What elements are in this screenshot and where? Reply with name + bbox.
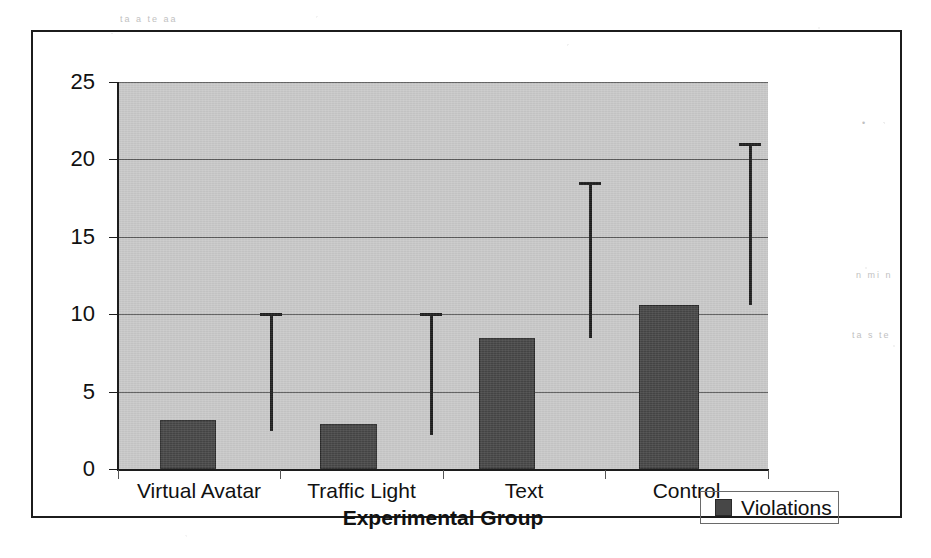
legend: Violations [700, 491, 839, 524]
y-tick-15 [109, 237, 118, 238]
bar-traffic-light[interactable] [320, 424, 377, 469]
legend-label-violations: Violations [741, 497, 832, 518]
error-bar-stem-control [749, 144, 752, 305]
y-axis-line [117, 82, 119, 470]
gridline-20 [118, 159, 768, 160]
scan-smudge-top: ta a te aa [120, 14, 178, 24]
y-tick-label-10: 10 [49, 303, 95, 325]
chart-frame: 25 20 15 10 5 0 Virtual Avatar Traffic L… [31, 30, 902, 518]
y-tick-label-0: 0 [49, 458, 95, 480]
x-tick-label-virtual-avatar: Virtual Avatar [118, 479, 280, 503]
error-bar-cap-control [739, 143, 761, 146]
x-axis-title: Experimental Group [117, 506, 769, 530]
gridline-25 [118, 82, 768, 83]
bar-virtual-avatar[interactable] [160, 420, 216, 469]
y-tick-label-5: 5 [49, 381, 95, 403]
legend-swatch-violations [715, 499, 732, 516]
x-tick-boundary-1 [280, 470, 281, 479]
y-tick-0 [109, 469, 118, 470]
y-tick-label-15: 15 [49, 226, 95, 248]
error-bar-cap-virtual-avatar [260, 313, 282, 316]
error-bar-cap-text [579, 182, 601, 185]
error-bar-cap-traffic-light [420, 313, 442, 316]
x-tick-boundary-4 [768, 470, 769, 479]
x-tick-boundary-3 [605, 470, 606, 479]
x-tick-label-text: Text [443, 479, 605, 503]
error-bar-stem-traffic-light [430, 314, 433, 435]
error-bar-stem-virtual-avatar [270, 314, 273, 431]
x-tick-boundary-0 [118, 470, 119, 479]
bar-text[interactable] [479, 338, 535, 469]
y-tick-10 [109, 314, 118, 315]
y-tick-20 [109, 159, 118, 160]
y-tick-label-20: 20 [49, 148, 95, 170]
y-tick-5 [109, 392, 118, 393]
plot-area [118, 82, 768, 469]
error-bar-stem-text [589, 183, 592, 338]
y-tick-label-25: 25 [49, 71, 95, 93]
bar-control[interactable] [639, 305, 699, 469]
y-tick-25 [109, 82, 118, 83]
gridline-15 [118, 237, 768, 238]
x-tick-boundary-2 [443, 470, 444, 479]
x-tick-label-traffic-light: Traffic Light [280, 479, 443, 503]
